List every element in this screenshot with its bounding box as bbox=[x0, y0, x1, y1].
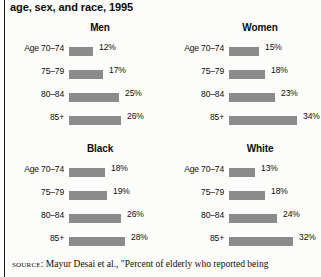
source-text: : Mayur Desai et al., "Percent of elderl… bbox=[41, 259, 269, 269]
bar-container: 26% bbox=[69, 111, 121, 129]
category-label: 80–84 bbox=[8, 210, 64, 220]
bar-row: Age 70–74 15% bbox=[168, 41, 320, 64]
bar-row: 80–84 23% bbox=[168, 87, 320, 110]
bar-container: 32% bbox=[229, 232, 293, 250]
bar-container: 24% bbox=[229, 209, 277, 227]
source-note: source: Mayur Desai et al., "Percent of … bbox=[12, 258, 312, 270]
bar-rows-white: Age 70–74 13% 75–79 18% 80–84 24% bbox=[168, 162, 320, 254]
bar bbox=[229, 70, 265, 79]
bar-value-label: 26% bbox=[127, 111, 144, 121]
left-vertical-rule bbox=[4, 0, 5, 277]
bar-value-label: 15% bbox=[265, 42, 282, 52]
bar-value-label: 26% bbox=[127, 209, 144, 219]
bar-row: 80–84 25% bbox=[8, 87, 160, 110]
category-label: Age 70–74 bbox=[8, 43, 64, 53]
bar-container: 34% bbox=[229, 111, 297, 129]
bar-container: 28% bbox=[69, 232, 125, 250]
category-label: 85+ bbox=[8, 112, 64, 122]
bar bbox=[229, 214, 277, 223]
panel-title-women: Women bbox=[168, 22, 320, 33]
bar bbox=[229, 47, 259, 56]
category-label: 85+ bbox=[168, 112, 224, 122]
bar-container: 13% bbox=[229, 163, 255, 181]
bar-container: 18% bbox=[69, 163, 105, 181]
bar-container: 25% bbox=[69, 88, 119, 106]
bar-row: 75–79 17% bbox=[8, 64, 160, 87]
figure-page: age, sex, and race, 1995 Men Age 70–74 1… bbox=[0, 0, 321, 277]
bar-container: 15% bbox=[229, 42, 259, 60]
bar-row: 85+ 34% bbox=[168, 110, 320, 133]
category-label: 85+ bbox=[168, 233, 224, 243]
bar bbox=[229, 168, 255, 177]
bar-value-label: 17% bbox=[109, 65, 126, 75]
bar-value-label: 32% bbox=[299, 232, 316, 242]
bar bbox=[69, 168, 105, 177]
figure-title: age, sex, and race, 1995 bbox=[10, 0, 133, 14]
bar-row: 85+ 26% bbox=[8, 110, 160, 133]
panel-title-white: White bbox=[168, 143, 320, 154]
bar bbox=[69, 70, 103, 79]
panel-black: Black Age 70–74 18% 75–79 19% 80–84 bbox=[8, 143, 160, 243]
bar bbox=[229, 191, 265, 200]
category-label: 85+ bbox=[8, 233, 64, 243]
panel-title-black: Black bbox=[8, 143, 160, 154]
bar-value-label: 18% bbox=[271, 65, 288, 75]
category-label: Age 70–74 bbox=[168, 164, 224, 174]
source-label: source bbox=[12, 259, 41, 269]
category-label: 80–84 bbox=[168, 89, 224, 99]
bar-row: Age 70–74 13% bbox=[168, 162, 320, 185]
bar-value-label: 19% bbox=[113, 186, 130, 196]
bar-rows-men: Age 70–74 12% 75–79 17% 80–84 25% bbox=[8, 41, 160, 133]
bar bbox=[69, 214, 121, 223]
bar-container: 18% bbox=[229, 186, 265, 204]
bar-value-label: 12% bbox=[99, 42, 116, 52]
bar-row: 80–84 24% bbox=[168, 208, 320, 231]
panel-title-men: Men bbox=[8, 22, 160, 33]
bar-rows-black: Age 70–74 18% 75–79 19% 80–84 26% bbox=[8, 162, 160, 254]
category-label: 75–79 bbox=[8, 187, 64, 197]
category-label: Age 70–74 bbox=[168, 43, 224, 53]
bar-row: 75–79 18% bbox=[168, 64, 320, 87]
bar-container: 17% bbox=[69, 65, 103, 83]
bar-value-label: 28% bbox=[131, 232, 148, 242]
bar-row: 75–79 19% bbox=[8, 185, 160, 208]
bar-row: 75–79 18% bbox=[168, 185, 320, 208]
bar bbox=[69, 191, 107, 200]
bar-container: 19% bbox=[69, 186, 107, 204]
bar-container: 12% bbox=[69, 42, 93, 60]
bar-value-label: 34% bbox=[303, 111, 320, 121]
category-label: 75–79 bbox=[168, 66, 224, 76]
category-label: 75–79 bbox=[8, 66, 64, 76]
bar-value-label: 23% bbox=[281, 88, 298, 98]
category-label: 80–84 bbox=[8, 89, 64, 99]
bar bbox=[229, 237, 293, 246]
bar-row: 80–84 26% bbox=[8, 208, 160, 231]
panel-men: Men Age 70–74 12% 75–79 17% 80–84 bbox=[8, 22, 160, 122]
bar bbox=[69, 116, 121, 125]
bar-container: 23% bbox=[229, 88, 275, 106]
bar-row: Age 70–74 12% bbox=[8, 41, 160, 64]
panel-women: Women Age 70–74 15% 75–79 18% 80–84 bbox=[168, 22, 320, 122]
bar bbox=[69, 237, 125, 246]
category-label: 80–84 bbox=[168, 210, 224, 220]
bar-row: 85+ 28% bbox=[8, 231, 160, 254]
bar bbox=[69, 93, 119, 102]
category-label: 75–79 bbox=[168, 187, 224, 197]
bar bbox=[229, 116, 297, 125]
bar bbox=[69, 47, 93, 56]
bar-value-label: 25% bbox=[125, 88, 142, 98]
bar bbox=[229, 93, 275, 102]
bar-container: 26% bbox=[69, 209, 121, 227]
panel-white: White Age 70–74 13% 75–79 18% 80–84 bbox=[168, 143, 320, 243]
category-label: Age 70–74 bbox=[8, 164, 64, 174]
bar-value-label: 18% bbox=[111, 163, 128, 173]
bar-row: 85+ 32% bbox=[168, 231, 320, 254]
bar-row: Age 70–74 18% bbox=[8, 162, 160, 185]
bar-value-label: 18% bbox=[271, 186, 288, 196]
bar-value-label: 13% bbox=[261, 163, 278, 173]
bar-value-label: 24% bbox=[283, 209, 300, 219]
bar-container: 18% bbox=[229, 65, 265, 83]
bar-rows-women: Age 70–74 15% 75–79 18% 80–84 23% bbox=[168, 41, 320, 133]
